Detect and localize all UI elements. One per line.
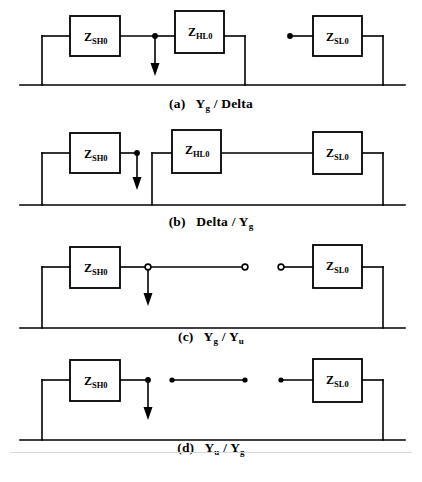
caption-a-divider: / <box>214 96 218 111</box>
circuit-figure: Z SH0 Z HL0 Z SL0 (a) Yg / Delta <box>0 0 422 482</box>
floating-terminal-left <box>169 377 174 382</box>
shunt-arrow-head <box>144 407 153 420</box>
block-zsh0-symbol: Z <box>84 147 92 161</box>
block-zsh0-subscript: SH0 <box>92 36 108 46</box>
panel-c-schematic: Z SH0 Z SL0 <box>0 240 422 340</box>
block-zsl0-subscript: SL0 <box>334 36 349 46</box>
shunt-arrow-head <box>151 63 160 76</box>
caption-b: (b) Delta / Yg <box>0 214 422 231</box>
block-zsh0-subscript: SH0 <box>92 380 108 390</box>
bottom-divider <box>10 452 412 453</box>
block-zhl0-subscript: HL0 <box>196 31 213 41</box>
caption-c-right-sub: u <box>239 336 244 346</box>
block-zhl0-symbol: Z <box>188 25 196 39</box>
block-zsh0-symbol: Z <box>84 261 92 275</box>
block-zhl0-subscript: HL0 <box>193 149 210 159</box>
panel-b-schematic: Z SH0 Z HL0 Z SL0 <box>0 120 422 220</box>
caption-c-right: Y <box>229 329 239 344</box>
block-zsh0-symbol: Z <box>84 374 92 388</box>
junction-open-circle <box>145 264 151 270</box>
block-zsh0-subscript: SH0 <box>92 153 108 163</box>
block-zsh0-symbol: Z <box>84 30 92 44</box>
open-terminal-right <box>278 264 284 270</box>
block-zsl0-symbol: Z <box>326 30 334 44</box>
junction-node-dot <box>134 150 140 156</box>
shunt-arrow-head <box>133 177 142 190</box>
caption-b-tag: (b) <box>169 214 186 229</box>
caption-a: (a) Yg / Delta <box>0 96 422 113</box>
junction-node-dot <box>152 33 158 39</box>
junction-node-dot <box>145 377 151 383</box>
floating-terminal-right <box>242 377 247 382</box>
caption-b-right: Y <box>239 214 249 229</box>
caption-c-left-sub: g <box>214 336 219 346</box>
panel-c: Z SH0 Z SL0 (c) Yg / Yu <box>0 240 422 360</box>
caption-a-right: Delta <box>221 96 253 111</box>
block-zsl0-subscript: SL0 <box>334 379 349 389</box>
panel-a: Z SH0 Z HL0 Z SL0 (a) Yg / Delta <box>0 0 422 120</box>
caption-a-left-sub: g <box>205 103 210 113</box>
caption-d: (d) Yu / Yg <box>0 440 422 457</box>
caption-c-tag: (c) <box>178 329 194 344</box>
open-terminal-left <box>242 264 248 270</box>
panel-d: Z SH0 Z SL0 (d) Yu / Yg <box>0 358 422 482</box>
source-terminal-dot <box>287 33 293 39</box>
block-zsl0-symbol: Z <box>326 259 334 273</box>
block-zhl0-symbol: Z <box>185 143 193 157</box>
caption-a-left: Y <box>195 96 205 111</box>
block-zsl0-symbol: Z <box>326 373 334 387</box>
block-zsl0-subscript: SL0 <box>334 152 349 162</box>
block-zsh0-subscript: SH0 <box>92 267 108 277</box>
source-terminal-dot <box>278 377 283 382</box>
block-zsl0-symbol: Z <box>326 146 334 160</box>
panel-a-schematic: Z SH0 Z HL0 Z SL0 <box>0 0 422 100</box>
panel-b: Z SH0 Z HL0 Z SL0 (b) Delta / Yg <box>0 120 422 240</box>
caption-b-right-sub: g <box>249 221 254 231</box>
block-zsl0-subscript: SL0 <box>334 265 349 275</box>
caption-b-divider: / <box>232 214 236 229</box>
caption-c-left: Y <box>204 329 214 344</box>
caption-c: (c) Yg / Yu <box>0 329 422 346</box>
caption-b-left: Delta <box>196 214 228 229</box>
shunt-arrow-head <box>144 293 153 306</box>
caption-c-divider: / <box>222 329 226 344</box>
caption-a-tag: (a) <box>169 96 185 111</box>
